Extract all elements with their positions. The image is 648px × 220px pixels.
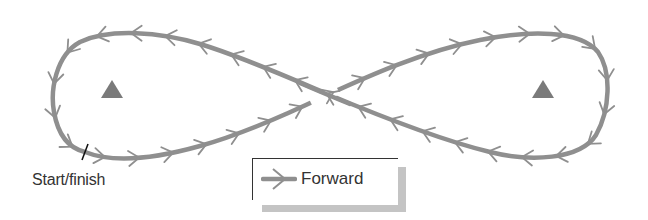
start-finish-label: Start/finish (32, 171, 105, 189)
right-triangle-icon (532, 80, 554, 98)
legend-label-forward: Forward (301, 169, 363, 189)
arrow-icon (261, 167, 297, 191)
legend-shadow (262, 205, 406, 212)
legend: Forward (252, 158, 398, 200)
left-triangle-icon (101, 80, 123, 98)
